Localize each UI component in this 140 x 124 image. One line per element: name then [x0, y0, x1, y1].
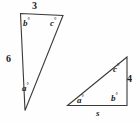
right-angle-c-degree: ° — [117, 63, 119, 69]
left-angle-a-degree: ° — [27, 82, 29, 88]
right-angle-b-degree: ° — [116, 92, 118, 98]
right-triangle-angle-b: b° — [111, 92, 118, 103]
right-triangle-angle-a: a° — [77, 94, 84, 105]
left-triangle-angle-b: b° — [23, 17, 30, 28]
left-angle-b-degree: ° — [28, 17, 30, 23]
left-triangle-top-side-length: 3 — [32, 1, 37, 11]
triangles-drawing — [0, 0, 140, 124]
right-triangle-bottom-side-length: s — [96, 109, 100, 118]
left-triangle-angle-c: c° — [50, 17, 56, 28]
right-triangle-right-side-length: 4 — [127, 74, 132, 84]
geometry-figure: 3 6 b° c° a° 4 s a° b° c° — [0, 0, 140, 124]
left-triangle-angle-a: a° — [22, 82, 29, 93]
right-angle-a-degree: ° — [82, 94, 84, 100]
left-triangle-left-side-length: 6 — [6, 54, 11, 64]
left-triangle-shape — [21, 14, 64, 111]
right-triangle-angle-c: c° — [113, 63, 119, 74]
left-angle-c-degree: ° — [54, 17, 56, 23]
